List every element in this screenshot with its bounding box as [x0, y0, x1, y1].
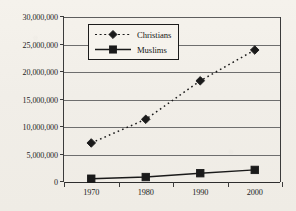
legend-item-muslims[interactable]: Muslims: [94, 43, 171, 56]
y-axis-label: 15,000,000: [23, 95, 58, 104]
data-point-diamond-marker[interactable]: [250, 46, 259, 55]
x-axis-tick: [173, 182, 174, 187]
x-axis-tick: [64, 182, 65, 187]
data-point-square-marker[interactable]: [142, 173, 149, 180]
data-point-diamond-marker[interactable]: [87, 139, 96, 148]
data-point-square-marker[interactable]: [197, 170, 204, 177]
chart-legend: Christians Muslims: [88, 24, 179, 60]
legend-label-muslims: Muslims: [137, 45, 167, 55]
data-point-diamond-marker[interactable]: [196, 77, 205, 86]
x-axis-tick: [282, 182, 283, 187]
line-chart: 05,000,00010,000,00015,000,00020,000,000…: [0, 0, 296, 211]
y-axis-label: 30,000,000: [23, 13, 58, 22]
solid-line-square-marker-icon: [94, 44, 132, 55]
x-axis-label: 1980: [138, 188, 154, 197]
y-axis-label: 0: [54, 178, 58, 187]
gridline: [64, 182, 280, 183]
x-axis-tick: [228, 182, 229, 187]
series-line-muslims: [91, 170, 255, 179]
y-axis-label: 25,000,000: [23, 40, 58, 49]
plot-area: 05,000,00010,000,00015,000,00020,000,000…: [63, 17, 281, 182]
x-axis-label: 2000: [247, 188, 263, 197]
dotted-line-diamond-marker-icon: [94, 29, 132, 40]
y-axis-label: 5,000,000: [27, 150, 58, 159]
x-axis-label: 1970: [83, 188, 99, 197]
x-axis-label: 1990: [192, 188, 208, 197]
series-line-christians: [91, 50, 255, 143]
data-point-square-marker[interactable]: [88, 175, 95, 182]
legend-label-christians: Christians: [137, 30, 171, 40]
data-point-square-marker[interactable]: [251, 166, 258, 173]
y-axis-label: 10,000,000: [23, 123, 58, 132]
legend-item-christians[interactable]: Christians: [94, 28, 171, 41]
x-axis-tick: [119, 182, 120, 187]
y-axis-label: 20,000,000: [23, 68, 58, 77]
